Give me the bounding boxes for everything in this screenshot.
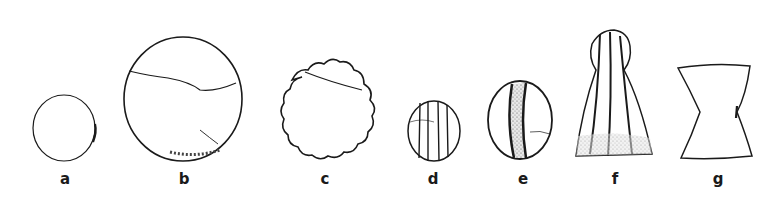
artifact-plate — [0, 0, 764, 202]
label-d: d — [418, 170, 448, 188]
artifact-a-disc — [33, 95, 96, 161]
label-a: a — [50, 170, 80, 188]
artifact-b-cracked-disc — [124, 37, 242, 161]
label-c: c — [310, 170, 340, 188]
label-f: f — [600, 170, 630, 188]
artifact-f-bell-pendant — [576, 30, 652, 156]
label-e: e — [508, 170, 538, 188]
label-g: g — [703, 170, 733, 188]
artifact-e-banded-oval — [488, 81, 552, 159]
artifact-c-scalloped-disc — [281, 59, 375, 158]
artifact-d-ribbed-oval — [408, 101, 460, 161]
artifact-g-hourglass — [678, 64, 752, 158]
label-b: b — [169, 170, 199, 188]
